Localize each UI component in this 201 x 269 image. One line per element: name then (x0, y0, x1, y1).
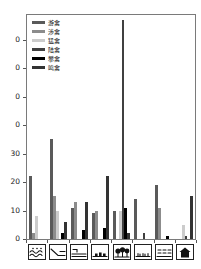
y-tick-label: 30 (0, 150, 20, 158)
x-tick-mark (132, 240, 133, 243)
legend-item: 陆禽 (32, 45, 60, 54)
x-category-building (175, 244, 196, 262)
bar-chart-figure: 00003020100 游禽涉禽猛禽陆禽攀禽鸣禽 (0, 0, 201, 269)
bar (134, 199, 137, 239)
legend-item: 攀禽 (32, 54, 60, 63)
x-tick-mark (90, 240, 91, 243)
x-tick-mark (175, 240, 176, 243)
y-tick-label: 20 (0, 178, 20, 186)
legend-line-swatch (32, 21, 45, 23)
settlement-icon (91, 244, 109, 260)
bar-group-woodland (111, 15, 132, 239)
bar (158, 208, 161, 239)
bar (64, 222, 67, 239)
bar (185, 236, 188, 239)
bar (74, 202, 77, 239)
y-tick-label: 0 (0, 36, 20, 44)
x-tick-mark (47, 240, 48, 243)
bar-group-grassland (132, 15, 153, 239)
grassland-icon (134, 244, 152, 260)
legend-line-swatch (32, 48, 45, 50)
channel-boat-icon (70, 244, 88, 260)
x-tick-mark (69, 240, 70, 243)
bar (95, 211, 98, 240)
woodland-icon (113, 244, 131, 260)
plot-area: 游禽涉禽猛禽陆禽攀禽鸣禽 (26, 14, 196, 240)
x-category-settlement (90, 244, 111, 262)
legend-item: 猛禽 (32, 36, 60, 45)
legend-item: 游禽 (32, 18, 60, 27)
bar (35, 216, 38, 239)
x-tick-mark (111, 240, 112, 243)
bar (143, 233, 146, 239)
legend-label: 陆禽 (48, 47, 60, 53)
bar (106, 176, 109, 239)
x-category-paddy-field (154, 244, 175, 262)
legend: 游禽涉禽猛禽陆禽攀禽鸣禽 (32, 18, 60, 72)
y-tick-label: 0 (0, 121, 20, 129)
x-category-channel-boat (69, 244, 90, 262)
bar (122, 20, 125, 239)
y-tick-label: 10 (0, 207, 20, 215)
legend-item: 鸣禽 (32, 63, 60, 72)
legend-line-swatch (32, 66, 45, 68)
legend-label: 涉禽 (48, 29, 60, 35)
bar (166, 236, 169, 239)
bar (127, 233, 130, 239)
x-tick-mark (154, 240, 155, 243)
x-category-woodland (111, 244, 132, 262)
building-icon (176, 244, 194, 260)
bar (113, 211, 116, 240)
bar (85, 202, 88, 239)
open-water-icon (28, 244, 46, 260)
legend-item: 涉禽 (32, 27, 60, 36)
legend-label: 猛禽 (48, 38, 60, 44)
bar (190, 196, 193, 239)
x-tick-mark (26, 240, 27, 243)
x-tick-mark (196, 240, 197, 243)
legend-line-swatch (32, 39, 45, 41)
legend-label: 攀禽 (48, 56, 60, 62)
paddy-field-icon (155, 244, 173, 260)
x-category-grassland (132, 244, 153, 262)
bar-group-channel-boat (69, 15, 90, 239)
legend-line-swatch (32, 57, 45, 59)
y-tick-label: 0 (0, 93, 20, 101)
bar-group-settlement (90, 15, 111, 239)
legend-line-swatch (32, 30, 45, 32)
bar (56, 211, 59, 240)
mudflat-shore-icon (49, 244, 67, 260)
legend-label: 鸣禽 (48, 65, 60, 71)
bar-group-paddy-field (153, 15, 174, 239)
x-category-open-water (26, 244, 47, 262)
x-axis-icon-row (26, 244, 196, 262)
legend-label: 游禽 (48, 20, 60, 26)
x-category-mudflat-shore (47, 244, 68, 262)
bar-group-building (174, 15, 195, 239)
y-tick-label: 0 (0, 235, 20, 243)
y-tick-label: 0 (0, 64, 20, 72)
bar (29, 176, 32, 239)
